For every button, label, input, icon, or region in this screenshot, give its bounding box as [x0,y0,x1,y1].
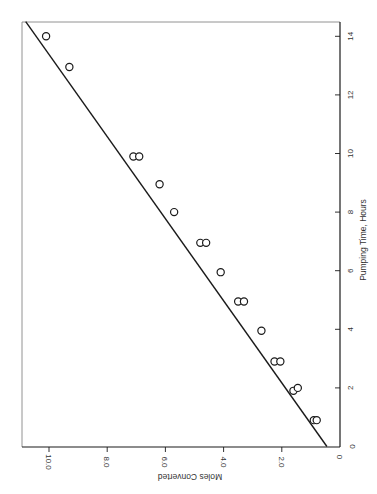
moles-tick-label: 2.0 [277,456,286,468]
time-tick-label: 4 [346,327,355,332]
data-point-circle [42,33,49,40]
time-tick-label: 12 [346,90,355,99]
moles-axis-label: Moles Converted [158,472,223,482]
data-point-circle [203,239,210,246]
moles-tick-label: 8.0 [102,456,111,468]
time-tick-label: 8 [346,209,355,214]
data-point-circle [294,384,301,391]
time-tick-label: 10 [346,149,355,158]
time-axis-label: Pumping Time, Hours [358,199,368,281]
moles-tick-label: 4.0 [219,456,228,468]
moles-tick-label: 6.0 [160,456,169,468]
data-point-circle [136,153,143,160]
moles-tick-label: 10.0 [44,454,53,470]
moles-tick-label: 0 [335,455,344,460]
time-tick-label: 0 [348,444,357,449]
time-tick-label: 14 [346,31,355,40]
data-point-circle [171,209,178,216]
time-tick-label: 6 [346,268,355,273]
time-tick-label: 2 [346,385,355,390]
chart: 02468101214 02.04.06.08.010.0 Pumping Ti… [0,0,377,494]
data-point-circle [217,269,224,276]
data-point-circle [66,63,73,70]
data-point-circle [313,417,320,424]
data-point-circle [258,327,265,334]
data-point-circle [277,358,284,365]
data-point-circle [240,298,247,305]
data-point-circle [156,181,163,188]
